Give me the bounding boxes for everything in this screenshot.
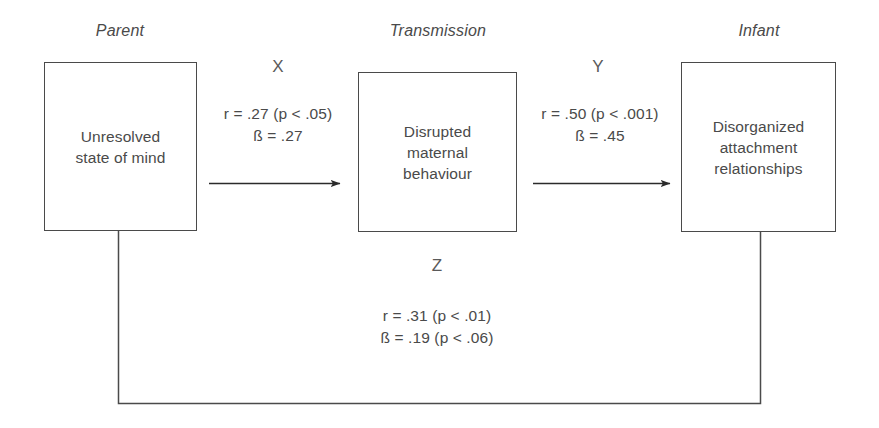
group-label-infant: Infant [680,22,838,40]
group-label-transmission: Transmission [357,22,519,40]
path-letter-x: X [238,57,318,77]
path-letter-z: Z [397,256,477,276]
path-stats-z: r = .31 (p < .01) ß = .19 (p < .06) [337,305,537,349]
path-model-diagram: Parent Transmission Infant Unresolved st… [0,0,879,428]
node-disrupted-maternal-behaviour: Disrupted maternal behaviour [358,72,517,232]
path-stats-y: r = .50 (p < .001) ß = .45 [518,103,682,147]
node-label: Unresolved state of mind [75,126,165,168]
node-label: Disorganized attachment relationships [713,116,805,179]
group-label-parent: Parent [40,22,200,40]
node-unresolved-state-of-mind: Unresolved state of mind [44,62,197,231]
path-letter-y: Y [558,57,638,77]
node-label: Disrupted maternal behaviour [403,121,472,184]
path-stats-x: r = .27 (p < .05) ß = .27 [198,103,358,147]
node-disorganized-attachment-relationships: Disorganized attachment relationships [681,62,836,232]
